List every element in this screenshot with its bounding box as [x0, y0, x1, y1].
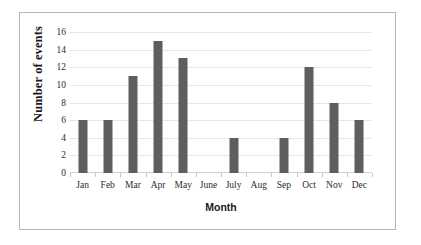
bar-slot [322, 32, 347, 173]
y-axis-tick-label: 12 [40, 62, 66, 72]
bar [229, 138, 238, 173]
x-axis-tick-mark [70, 173, 71, 177]
x-axis-tick-label: Nov [322, 179, 347, 191]
bar-slot [196, 32, 221, 173]
bar-slot [297, 32, 322, 173]
x-axis-tick-mark [95, 173, 96, 177]
bar-slot [95, 32, 120, 173]
x-axis-tick-mark [120, 173, 121, 177]
x-axis-tick-label: Jan [70, 179, 95, 191]
x-axis-tick-label: May [171, 179, 196, 191]
x-axis-tick-mark [372, 173, 373, 177]
y-axis-tick-label: 8 [40, 98, 66, 108]
x-axis-tick-label: Dec [347, 179, 372, 191]
x-axis-tick-label: July [221, 179, 246, 191]
y-axis-tick-label: 10 [40, 80, 66, 90]
bar-slot [221, 32, 246, 173]
bar [330, 103, 339, 174]
bar [305, 67, 314, 173]
y-axis-tick-label: 14 [40, 45, 66, 55]
x-axis-tick-mark [297, 173, 298, 177]
bar-slot [246, 32, 271, 173]
bar-slot [271, 32, 296, 173]
plot-area [70, 32, 372, 173]
bar [154, 41, 163, 173]
x-axis-tick-mark [221, 173, 222, 177]
bar-slot [347, 32, 372, 173]
bar-series [70, 32, 372, 173]
y-axis-tick-label: 2 [40, 150, 66, 160]
bar-slot [171, 32, 196, 173]
bar [78, 120, 87, 173]
y-axis-tick-label: 6 [40, 115, 66, 125]
y-axis-tick-label: 4 [40, 133, 66, 143]
bar [279, 138, 288, 173]
bar [179, 58, 188, 173]
y-axis-tick-label: 0 [40, 168, 66, 178]
bar-slot [120, 32, 145, 173]
x-axis-title: Month [70, 201, 372, 213]
x-axis-tick-mark [322, 173, 323, 177]
bar [355, 120, 364, 173]
bar-slot [70, 32, 95, 173]
x-axis-tick-mark [171, 173, 172, 177]
bar [128, 76, 137, 173]
bar [103, 120, 112, 173]
x-axis-tick-mark [271, 173, 272, 177]
x-axis-tick-mark [246, 173, 247, 177]
x-axis-tick-mark [146, 173, 147, 177]
x-axis-tick-labels: JanFebMarAprMayJuneJulyAugSepOctNovDec [70, 179, 372, 195]
x-axis-tick-marks [70, 173, 372, 177]
y-axis-tick-label: 16 [40, 27, 66, 37]
x-axis-tick-label: Feb [95, 179, 120, 191]
y-axis-tick-labels: 0246810121416 [38, 32, 66, 173]
x-axis-tick-mark [196, 173, 197, 177]
bar-slot [146, 32, 171, 173]
x-axis-tick-mark [347, 173, 348, 177]
x-axis-tick-label: Mar [120, 179, 145, 191]
x-axis-tick-label: Oct [297, 179, 322, 191]
x-axis-tick-label: June [196, 179, 221, 191]
x-axis-tick-label: Aug [246, 179, 271, 191]
x-axis-tick-label: Sep [271, 179, 296, 191]
x-axis-tick-label: Apr [146, 179, 171, 191]
chart-container: Number of events 0246810121416 JanFebMar… [19, 12, 396, 230]
